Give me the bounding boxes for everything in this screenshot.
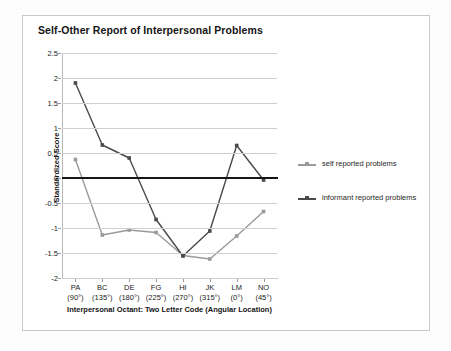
legend-swatch: [298, 164, 316, 166]
x-tick-angle: (90°): [67, 293, 83, 303]
series-line: [75, 160, 263, 260]
data-point-marker: [235, 234, 239, 238]
gridline: [62, 253, 277, 254]
y-tick-mark: [58, 253, 61, 254]
y-tick-mark: [58, 53, 61, 54]
x-tick-code: NO: [255, 283, 271, 293]
x-tick-label: HI(270°): [173, 283, 194, 303]
x-tick-code: HI: [173, 283, 194, 293]
gridline: [62, 128, 277, 129]
x-tick-code: BC: [92, 283, 113, 293]
chart-title: Self-Other Report of Interpersonal Probl…: [38, 24, 263, 36]
gridline: [62, 103, 277, 104]
y-tick-mark: [58, 228, 61, 229]
x-tick-label: JK(315°): [200, 283, 221, 303]
x-tick-code: FG: [146, 283, 167, 293]
x-tick-label: NO(45°): [255, 283, 271, 303]
data-point-marker: [101, 233, 105, 237]
y-tick-label: -2: [51, 274, 58, 283]
x-tick-angle: (0°): [231, 293, 243, 303]
x-tick-mark: [129, 279, 130, 282]
x-tick-angle: (270°): [173, 293, 194, 303]
legend-label: self reported problems: [322, 159, 397, 168]
x-tick-label: DE(180°): [119, 283, 140, 303]
x-tick-mark: [102, 279, 103, 282]
x-tick-mark: [156, 279, 157, 282]
data-point-marker: [74, 81, 78, 85]
y-tick-mark: [58, 178, 61, 179]
x-tick-mark: [183, 279, 184, 282]
x-tick-label: PA(90°): [67, 283, 83, 303]
chart-legend: self reported problemsinformant reported…: [298, 160, 423, 228]
y-tick-label: -1.5: [45, 249, 58, 258]
legend-entry: self reported problems: [298, 160, 423, 170]
x-tick-code: LM: [231, 283, 243, 293]
x-tick-angle: (315°): [200, 293, 221, 303]
y-axis-tick-labels: 2.521.510.50-0.5-1-1.5-2: [28, 53, 58, 278]
x-tick-angle: (180°): [119, 293, 140, 303]
series-lines: [62, 53, 277, 278]
x-tick-code: PA: [67, 283, 83, 293]
y-tick-label: 1.5: [48, 99, 58, 108]
data-point-marker: [154, 218, 158, 222]
data-point-marker: [74, 158, 78, 162]
x-tick-label: LM(0°): [231, 283, 243, 303]
gridline: [62, 228, 277, 229]
chart-figure: Self-Other Report of Interpersonal Probl…: [0, 0, 451, 351]
x-tick-code: JK: [200, 283, 221, 293]
y-tick-mark: [58, 278, 61, 279]
data-point-marker: [208, 257, 212, 261]
legend-marker-icon: [305, 162, 309, 166]
gridline: [62, 53, 277, 54]
plot-area: [62, 53, 277, 278]
x-tick-angle: (135°): [92, 293, 113, 303]
y-tick-mark: [58, 78, 61, 79]
gridline: [62, 78, 277, 79]
data-point-marker: [208, 229, 212, 233]
gridline: [62, 153, 277, 154]
y-tick-label: -0.5: [45, 199, 58, 208]
y-tick-mark: [58, 128, 61, 129]
x-tick-mark: [210, 279, 211, 282]
x-axis-title: Interpersonal Octant: Two Letter Code (A…: [62, 305, 277, 314]
data-point-marker: [235, 144, 239, 148]
data-point-marker: [181, 254, 185, 258]
x-tick-label: FG(225°): [146, 283, 167, 303]
y-tick-label: 2.5: [48, 49, 58, 58]
x-tick-mark: [264, 279, 265, 282]
x-tick-label: BC(135°): [92, 283, 113, 303]
gridline: [62, 203, 277, 204]
legend-label: informant reported problems: [322, 193, 416, 202]
y-tick-mark: [58, 103, 61, 104]
y-tick-mark: [58, 153, 61, 154]
x-tick-mark: [75, 279, 76, 282]
data-point-marker: [154, 231, 158, 235]
x-tick-angle: (225°): [146, 293, 167, 303]
legend-swatch: [298, 198, 316, 200]
data-point-marker: [127, 156, 131, 160]
legend-entry: informant reported problems: [298, 194, 423, 204]
x-tick-mark: [237, 279, 238, 282]
y-tick-label: -1: [51, 224, 58, 233]
y-tick-label: 0.5: [48, 149, 58, 158]
series-line: [75, 83, 263, 256]
data-point-marker: [101, 143, 105, 147]
x-tick-code: DE: [119, 283, 140, 293]
zero-line: [62, 177, 278, 179]
legend-marker-icon: [305, 196, 309, 200]
data-point-marker: [262, 210, 266, 214]
y-tick-mark: [58, 203, 61, 204]
x-tick-angle: (45°): [255, 293, 271, 303]
